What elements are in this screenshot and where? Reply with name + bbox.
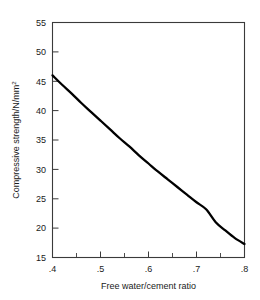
x-tick-label: .6	[145, 264, 153, 274]
y-tick-label: 30	[36, 165, 46, 175]
y-tick-label: 25	[36, 194, 46, 204]
y-axis-title-superscript: 2	[10, 81, 17, 85]
x-tick-label: .7	[193, 264, 201, 274]
y-tick-label: 15	[36, 253, 46, 263]
y-tick-label: 35	[36, 135, 46, 145]
x-axis-title: Free water/cement ratio	[101, 281, 196, 291]
y-tick-label: 45	[36, 77, 46, 87]
y-tick-label: 40	[36, 106, 46, 116]
x-tick-label: .4	[49, 264, 57, 274]
y-axis-title-text: Compressive strength/N/mm	[11, 85, 21, 199]
y-axis-title: Compressive strength/N/mm2	[10, 81, 21, 199]
compressive-strength-vs-water-cement-ratio-chart: 55 50 45 40 35 30 25 20 15 .4 .5 .6 .7 .…	[0, 0, 260, 300]
y-axis-tick-labels: 55 50 45 40 35 30 25 20 15	[36, 18, 46, 263]
y-tick-label: 55	[36, 18, 46, 28]
y-tick-label: 50	[36, 47, 46, 57]
chart-figure: 55 50 45 40 35 30 25 20 15 .4 .5 .6 .7 .…	[0, 0, 260, 300]
svg-text:Compressive strength/N/mm2: Compressive strength/N/mm2	[10, 81, 21, 199]
x-tick-label: .8	[241, 264, 249, 274]
x-tick-label: .5	[97, 264, 105, 274]
y-tick-label: 20	[36, 223, 46, 233]
